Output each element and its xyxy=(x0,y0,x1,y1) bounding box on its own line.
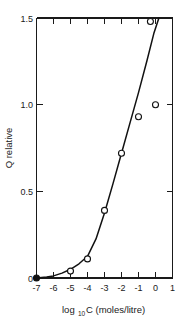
y-tick-labels: 0 0.5 1.0 1.5 xyxy=(20,14,33,284)
data-point-filled-origin xyxy=(34,275,40,281)
y-tick-label-1-5: 1.5 xyxy=(20,14,33,24)
scatter-plot-svg: 0 0.5 1.0 1.5 -7 -6 -5 -4 -3 -2 -1 0 1 l… xyxy=(0,0,192,326)
y-axis-title: Q relative xyxy=(3,128,14,169)
data-point-open-5 xyxy=(136,114,142,120)
y-tick-label-1-0: 1.0 xyxy=(20,100,33,110)
data-point-open-3 xyxy=(102,207,108,213)
x-axis-title: log 10 C (moles/litre) xyxy=(62,304,145,317)
data-point-open-6 xyxy=(153,102,159,108)
data-point-open-7 xyxy=(147,19,153,25)
x-tick-labels: -7 -6 -5 -4 -3 -2 -1 0 1 xyxy=(32,283,175,293)
fitted-curve xyxy=(37,18,159,278)
x-tick-label--5: -5 xyxy=(66,283,74,293)
x-tick-label--1: -1 xyxy=(134,283,142,293)
y-axis-title-text: Q relative xyxy=(3,128,14,169)
x-tick-label--3: -3 xyxy=(100,283,108,293)
data-point-open-1 xyxy=(68,268,74,274)
y-tick-label-0: 0 xyxy=(28,274,33,284)
x-tick-label-0: 0 xyxy=(153,283,158,293)
fitted-curve-group xyxy=(37,18,159,278)
x-tick-label--2: -2 xyxy=(117,283,125,293)
x-tick-label--4: -4 xyxy=(83,283,91,293)
data-point-open-4 xyxy=(119,150,125,156)
x-axis-title-subscript: 10 xyxy=(78,310,86,317)
x-tick-label--7: -7 xyxy=(32,283,40,293)
data-point-open-2 xyxy=(85,256,91,262)
x-tick-marks-top xyxy=(54,18,156,24)
x-tick-label-1: 1 xyxy=(170,283,175,293)
y-tick-marks-left xyxy=(37,18,43,278)
x-axis-title-rest: C (moles/litre) xyxy=(86,304,145,315)
y-tick-label-0-5: 0.5 xyxy=(20,187,33,197)
chart-figure: 0 0.5 1.0 1.5 -7 -6 -5 -4 -3 -2 -1 0 1 l… xyxy=(0,0,192,326)
axes-group xyxy=(37,18,173,278)
y-tick-marks-right xyxy=(167,105,173,192)
x-tick-label--6: -6 xyxy=(49,283,57,293)
data-points-group xyxy=(34,19,159,282)
x-axis-title-main: log xyxy=(62,304,75,315)
